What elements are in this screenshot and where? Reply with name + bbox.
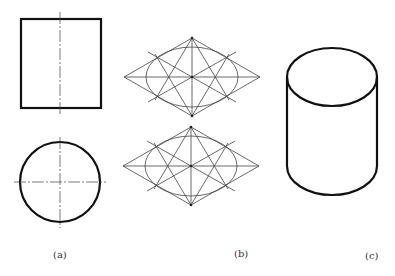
panel-a-front-view (21, 12, 101, 115)
panel-b-label: (b) (234, 248, 248, 260)
panel-b-lower-construction (123, 126, 259, 207)
panel-a-label: (a) (53, 249, 67, 261)
panel-a-top-view (14, 137, 106, 228)
lower-bottom-to-upper-left (154, 143, 191, 205)
lower-top-to-lower-right (191, 127, 228, 189)
upper-bottom-to-upper-right (192, 54, 229, 116)
cylinder-bottom-arc (287, 166, 377, 195)
panel-c-isometric-cylinder (287, 48, 377, 195)
cylinder-top-ellipse (287, 48, 377, 106)
upper-top-to-lower-left (155, 38, 192, 100)
upper-top-to-lower-right (192, 38, 229, 100)
front-view-rectangle (21, 19, 101, 108)
upper-bottom-to-upper-left (155, 54, 192, 116)
lower-bottom-to-upper-right (191, 143, 228, 205)
diagram-canvas (0, 0, 395, 276)
lower-top-to-lower-left (154, 127, 191, 189)
panel-c-label: (c) (365, 250, 378, 262)
panel-b-upper-construction (124, 37, 260, 118)
